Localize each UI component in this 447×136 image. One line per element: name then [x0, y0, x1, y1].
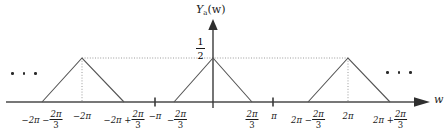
- tick-fraction: 2π3: [131, 110, 144, 129]
- tick-fraction-numerator: 2π: [174, 110, 187, 120]
- tick-label-pos-pi: π: [271, 112, 277, 121]
- tick-label-2pi-minus-2pi3: 2π −2π3: [291, 110, 325, 129]
- y-axis-arrowhead: [208, 19, 217, 30]
- tick-fraction-denominator: 3: [174, 120, 187, 129]
- tick-fraction: 2π3: [312, 110, 325, 129]
- tick-fraction: 2π3: [174, 110, 187, 129]
- tick-fraction-numerator: 2π: [312, 110, 325, 120]
- spectrum-figure: Ya(w) 1 2 w −2π −2π3 −2π −2π +2π3 −π −2π…: [0, 0, 447, 136]
- tick-fraction-denominator: 3: [312, 120, 325, 129]
- tick-fraction-numerator: 2π: [246, 110, 259, 120]
- tick-label-2pi: 2π: [343, 112, 354, 121]
- ellipsis-dot: [11, 72, 14, 75]
- tick-prefix: −: [167, 115, 174, 125]
- ellipsis-right: [386, 71, 412, 74]
- triangle-right-replica: [308, 58, 390, 102]
- tick-fraction: 2π3: [246, 110, 259, 129]
- tick-fraction-denominator: 3: [246, 120, 259, 129]
- tick-label-neg-pi: −π: [149, 112, 162, 121]
- x-axis-arrowhead: [414, 97, 430, 107]
- triangle-left-replica: [42, 58, 124, 102]
- tick-prefix: 2π: [343, 111, 354, 121]
- tick-prefix: −2π: [73, 111, 91, 121]
- ellipsis-dot: [398, 71, 401, 74]
- tick-fraction: 2π3: [49, 110, 62, 129]
- tick-fraction-numerator: 2π: [394, 110, 407, 120]
- ellipsis-dot: [34, 72, 37, 75]
- tick-prefix: −2π +: [104, 115, 132, 125]
- ellipsis-left: [11, 72, 37, 75]
- tick-fraction-denominator: 3: [394, 120, 407, 129]
- x-axis-variable-label: w: [434, 94, 443, 105]
- tick-fraction-denominator: 3: [131, 120, 144, 129]
- tick-label-neg2pi-minus-2pi3: −2π −2π3: [22, 110, 63, 129]
- ellipsis-dot: [23, 72, 26, 75]
- amplitude-label-one-half: 1 2: [196, 36, 205, 61]
- tick-fraction-numerator: 2π: [131, 110, 144, 120]
- tick-prefix: 2π +: [373, 115, 394, 125]
- amplitude-numerator: 1: [196, 36, 205, 49]
- tick-label-pos-2pi3: 2π3: [246, 110, 259, 129]
- tick-label-neg-2pi3: −2π3: [167, 110, 187, 129]
- tick-label-2pi-plus-2pi3: 2π +2π3: [373, 110, 407, 129]
- tick-fraction-numerator: 2π: [49, 110, 62, 120]
- tick-fraction: 2π3: [394, 110, 407, 129]
- y-axis-label: Ya(w): [196, 4, 225, 17]
- tick-prefix: −π: [149, 111, 162, 121]
- tick-fraction-denominator: 3: [49, 120, 62, 129]
- ellipsis-dot: [409, 71, 412, 74]
- tick-label-neg2pi-plus-2pi3: −2π +2π3: [104, 110, 145, 129]
- ellipsis-dot: [386, 71, 389, 74]
- amplitude-denominator: 2: [196, 49, 205, 61]
- tick-prefix: −2π −: [22, 115, 50, 125]
- tick-prefix: 2π −: [291, 115, 312, 125]
- tick-label-neg2pi: −2π: [73, 112, 91, 121]
- y-axis-label-argument: (w): [207, 3, 225, 16]
- tick-prefix: π: [271, 111, 277, 121]
